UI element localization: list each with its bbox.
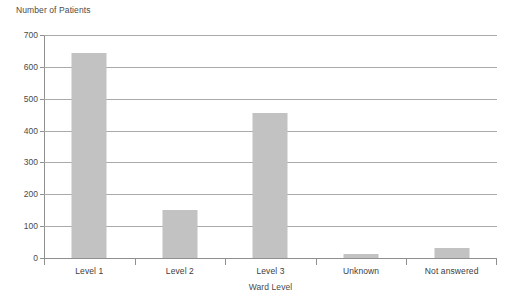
bar-group	[316, 35, 407, 258]
bar-group	[135, 35, 226, 258]
x-axis-label: Not answered	[406, 266, 497, 276]
bar	[162, 210, 197, 258]
y-axis-label-600: 600	[24, 63, 38, 72]
x-tick	[496, 258, 497, 265]
bar-group	[44, 35, 135, 258]
x-tick	[44, 258, 45, 265]
y-axis-label-300: 300	[24, 158, 38, 167]
bar-group	[225, 35, 316, 258]
plot-area: 0100200300400500600700	[44, 35, 497, 258]
bar	[253, 113, 288, 258]
y-axis-label-400: 400	[24, 126, 38, 135]
bar	[72, 53, 107, 258]
x-axis-label: Level 2	[135, 266, 226, 276]
y-axis-label-700: 700	[24, 31, 38, 40]
bar-series	[44, 35, 497, 258]
x-axis-title: Ward Level	[44, 282, 497, 292]
x-tick	[406, 258, 407, 265]
bar-group	[406, 35, 497, 258]
y-axis-label-0: 0	[33, 254, 38, 263]
x-tick	[225, 258, 226, 265]
x-tick	[316, 258, 317, 265]
bar	[434, 248, 469, 258]
x-axis-label: Level 1	[44, 266, 135, 276]
y-axis-label-100: 100	[24, 222, 38, 231]
x-axis-label: Level 3	[225, 266, 316, 276]
x-tick	[135, 258, 136, 265]
x-axis-label: Unknown	[316, 266, 407, 276]
bar-chart: Number of Patients 010020030040050060070…	[0, 0, 511, 307]
y-axis-label-200: 200	[24, 190, 38, 199]
y-axis-label-500: 500	[24, 94, 38, 103]
y-axis-title: Number of Patients	[16, 5, 91, 15]
category-axis: Level 1Level 2Level 3UnknownNot answered	[44, 258, 497, 282]
